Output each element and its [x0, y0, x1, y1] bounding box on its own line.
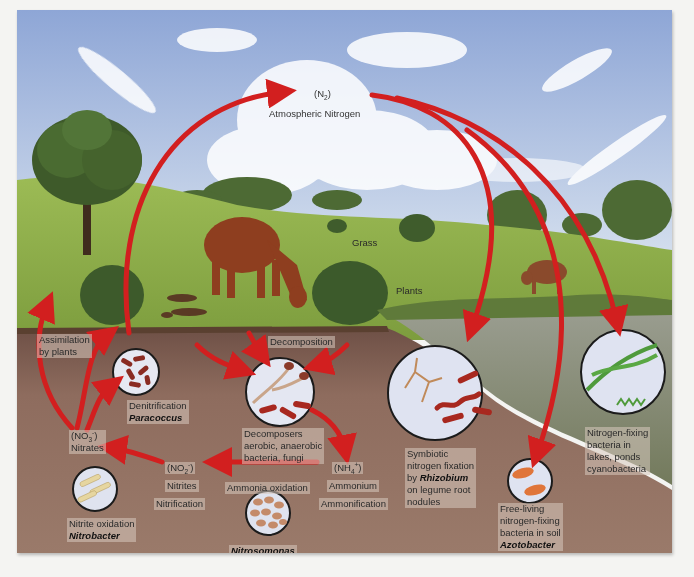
denitrification-label: DenitrificationParacoccus [127, 400, 189, 424]
free-living-fixation-label: Free-livingnitrogen-fixingbacteria in so… [498, 503, 563, 551]
cyanobacteria-circle [581, 330, 665, 414]
nitrosomonas-label: Nitrosomonas [229, 545, 297, 553]
bush-plants [312, 261, 388, 325]
azotobacter-circle [508, 459, 552, 503]
ammonium-formula: (NH4+) [332, 462, 363, 474]
nitrogen-cycle-diagram: (N2) Atmospheric Nitrogen Grass Plants A… [17, 10, 672, 553]
bush-left [80, 265, 144, 325]
nitrification-label: Nitrification [154, 498, 205, 510]
ammonium-label: Ammonium [327, 480, 379, 492]
nitrates-label: (NO3-)Nitrates [69, 430, 106, 454]
plants-label: Plants [396, 285, 422, 297]
n2-formula: (N2) [314, 88, 331, 100]
nitrites-label: Nitrites [165, 480, 199, 492]
aquatic-fixation-label: Nitrogen-fixingbacteria inlakes, pondscy… [585, 427, 650, 475]
decomposition-label: Decomposition [268, 336, 335, 348]
nitrite-oxidation-label: Nitrite oxidationNitrobacter [67, 518, 136, 542]
paracoccus-circle [113, 349, 159, 395]
ammonia-oxidation-label: Ammonia oxidation [225, 482, 310, 494]
assimilation-label: Assimilationby plants [37, 334, 92, 358]
nitrites-formula: (NO2-) [165, 462, 195, 474]
decomposers-label: Decomposersaerobic, anaerobicbacteria, f… [242, 428, 324, 464]
bush-hill [399, 214, 435, 242]
ammonification-label: Ammonification [319, 498, 388, 510]
nitrosomonas-circle [246, 491, 290, 535]
decomposers-circle [246, 358, 314, 426]
atmospheric-nitrogen-label: Atmospheric Nitrogen [269, 108, 360, 120]
symbiotic-fixation-label: Symbioticnitrogen fixationby Rhizobiumon… [405, 448, 476, 508]
grass-label: Grass [352, 237, 377, 249]
nitrobacter-circle [73, 467, 117, 511]
